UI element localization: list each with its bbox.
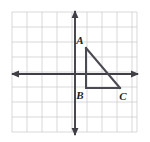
x-axis-arrow-right-icon [131, 71, 139, 78]
coordinate-plane-figure: A B C [0, 0, 150, 142]
vertex-label-c: C [119, 90, 127, 102]
edge-CA [86, 48, 120, 88]
y-axis-arrow-up-icon [72, 10, 79, 18]
vertex-label-a: A [75, 34, 83, 46]
triangle-ABC [86, 48, 120, 88]
vertex-label-b: B [75, 89, 83, 101]
geometry-diagram: A B C [0, 0, 150, 142]
